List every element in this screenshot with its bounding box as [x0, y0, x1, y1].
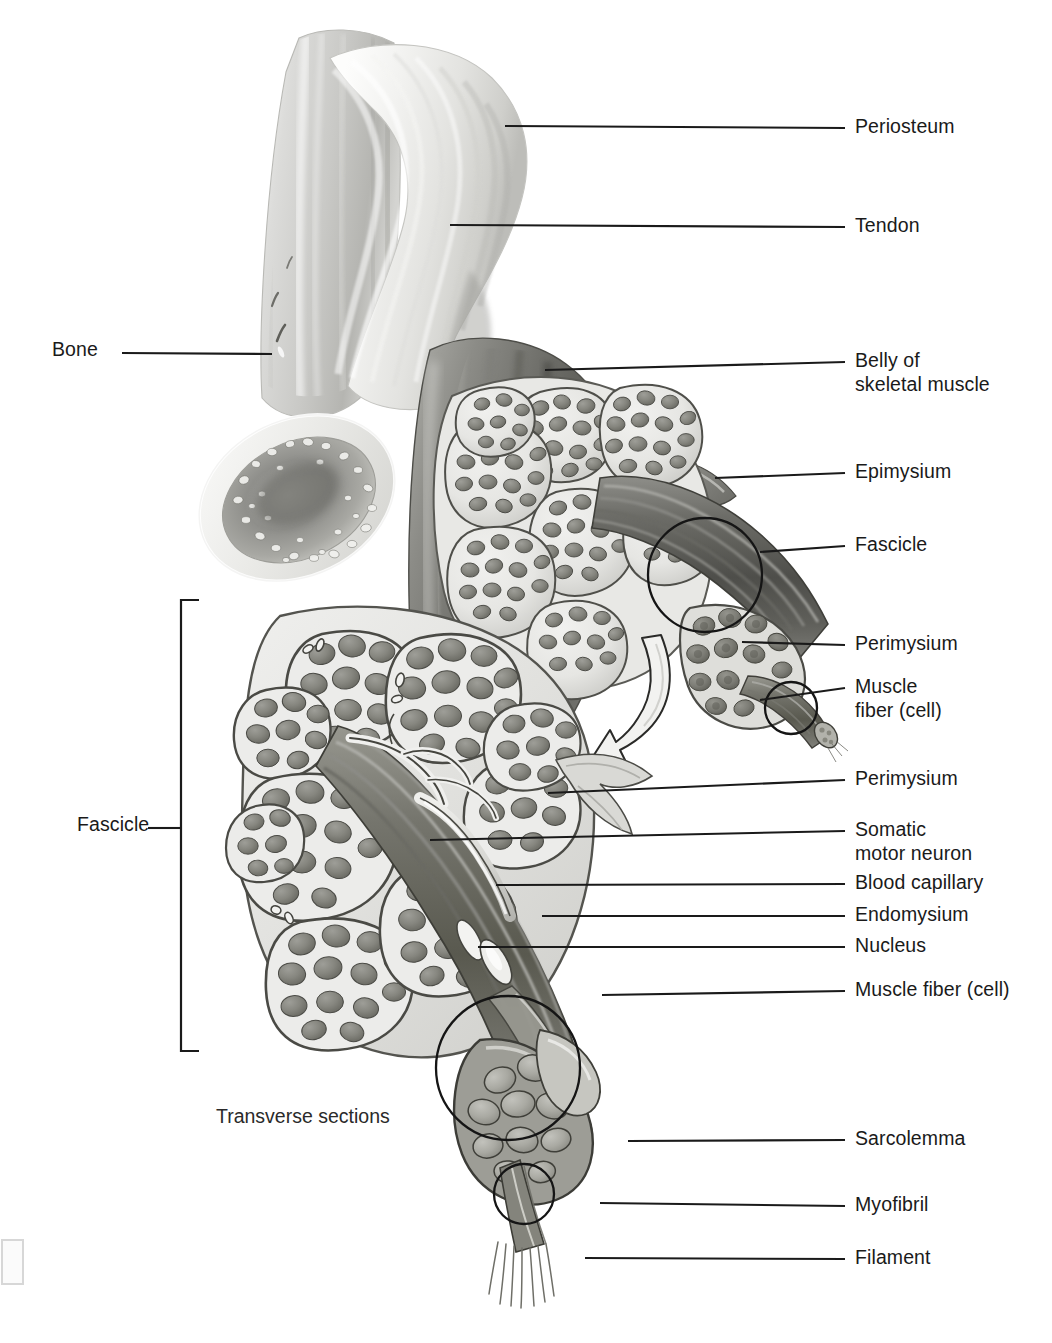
filament — [511, 1246, 514, 1306]
filament — [500, 1244, 506, 1304]
leader-sarcolemma — [628, 1140, 845, 1141]
label-musclefiber-line2: fiber (cell) — [855, 698, 942, 722]
label-bone: Bone — [52, 337, 98, 361]
bone-cut-end — [171, 383, 423, 613]
fascicle — [600, 385, 702, 488]
label-tendon: Tendon — [855, 213, 920, 237]
fascicle — [226, 804, 304, 882]
leader-epimysium — [715, 473, 845, 478]
label-filament: Filament — [855, 1245, 931, 1269]
label-blood-capillary: Blood capillary — [855, 870, 983, 894]
figure-page: PeriosteumTendonBelly ofskeletal muscleE… — [0, 0, 1052, 1343]
filament — [521, 1248, 522, 1308]
leader-myofibril — [600, 1203, 845, 1206]
label-periosteum: Periosteum — [855, 114, 955, 138]
leader-bone — [122, 353, 272, 354]
label-myofibril: Myofibril — [855, 1192, 929, 1216]
transverse-sections-caption: Transverse sections — [216, 1105, 390, 1128]
filament — [530, 1248, 534, 1306]
label-musclefiber-cell: Muscle fiber (cell) — [855, 977, 1010, 1001]
fascicle — [456, 387, 535, 457]
leader-belly-line1 — [545, 362, 845, 370]
leader-periosteum — [505, 126, 845, 128]
label-nucleus: Nucleus — [855, 933, 926, 957]
label-epimysium: Epimysium — [855, 459, 951, 483]
label-belly-line1: Belly of — [855, 348, 920, 372]
label-fascicle-left: Fascicle — [77, 812, 149, 836]
label-sarcolemma: Sarcolemma — [855, 1126, 965, 1150]
label-musclefiber-line1: Muscle — [855, 674, 917, 698]
label-perimysium-lower: Perimysium — [855, 766, 958, 790]
filament — [546, 1244, 554, 1296]
leader-blood-capillary — [496, 884, 845, 885]
label-somatic-line1: Somatic — [855, 817, 926, 841]
label-somatic-line2: motor neuron — [855, 841, 972, 865]
bracket-path — [181, 600, 199, 1051]
scan-artifact — [1, 1239, 24, 1285]
filament-group — [489, 1242, 554, 1308]
leader-filament — [585, 1258, 845, 1259]
label-belly-line2: skeletal muscle — [855, 372, 990, 396]
filament — [538, 1246, 545, 1302]
filament — [489, 1242, 498, 1294]
leader-musclefiber-cell — [602, 991, 845, 995]
label-endomysium: Endomysium — [855, 902, 969, 926]
fascicle-bracket — [181, 600, 199, 1051]
label-perimysium-upper: Perimysium — [855, 631, 958, 655]
label-fascicle-right: Fascicle — [855, 532, 927, 556]
